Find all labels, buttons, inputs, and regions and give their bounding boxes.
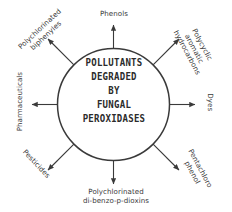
pollutants-radial-diagram: POLLUTANTS DEGRADED BY FUNGAL PEROXIDASE… bbox=[0, 0, 232, 212]
node-label-polychlorinated-di-benzo-p-dioxins: Polychlorinated di-benzo-p-dioxins bbox=[62, 188, 170, 205]
center-line-3: BY bbox=[66, 83, 162, 97]
node-label-pharmaceuticals: Pharmaceuticals bbox=[16, 73, 25, 131]
node-label-dyes: Dyes bbox=[206, 89, 215, 115]
center-label: POLLUTANTS DEGRADED BY FUNGAL PEROXIDASE… bbox=[66, 55, 162, 125]
center-line-1: POLLUTANTS bbox=[66, 55, 162, 69]
node-label-dyes-line-1: Dyes bbox=[206, 89, 215, 115]
node-label-phenols-line-1: Phenols bbox=[92, 10, 136, 19]
center-line-4: FUNGAL bbox=[66, 97, 162, 111]
node-label-pharmaceuticals-line-1: Pharmaceuticals bbox=[16, 73, 25, 131]
node-label-phenols: Phenols bbox=[92, 10, 136, 19]
arrow-pentachloro-phenol bbox=[153, 144, 179, 170]
center-line-5: PEROXIDASES bbox=[66, 111, 162, 125]
center-line-2: DEGRADED bbox=[66, 69, 162, 83]
node-label-dioxins-line-2: di-benzo-p-dioxins bbox=[62, 197, 170, 206]
arrow-pesticides bbox=[48, 144, 74, 170]
